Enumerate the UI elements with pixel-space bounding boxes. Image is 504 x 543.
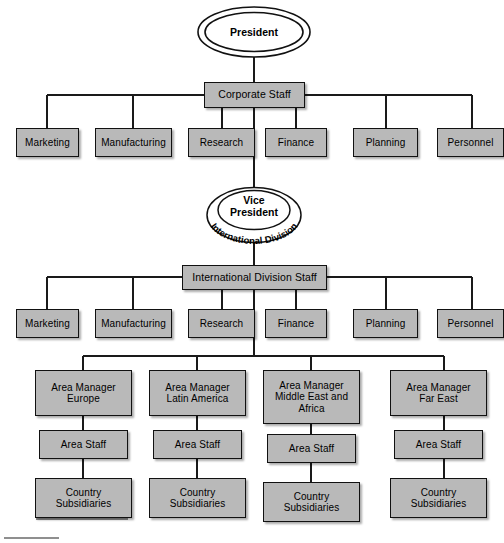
footer-rule-lower	[4, 537, 59, 539]
president-label: President	[230, 26, 278, 38]
corporate-dept-label: Manufacturing	[101, 137, 166, 149]
international-division-staff-box[interactable]: International Division Staff	[182, 265, 327, 290]
corporate-dept-label: Finance	[278, 137, 314, 149]
corporate-dept-finance[interactable]: Finance	[265, 128, 327, 157]
area-staff-label: Area Staff	[175, 439, 220, 451]
international-dept-label: Finance	[278, 318, 314, 330]
area-manager-label-line3: Africa	[275, 403, 348, 415]
international-dept-label: Manufacturing	[101, 318, 166, 330]
corporate-dept-label: Research	[200, 137, 244, 149]
corporate-dept-planning[interactable]: Planning	[353, 128, 418, 157]
corporate-dept-label: Planning	[366, 137, 406, 149]
corporate-dept-research[interactable]: Research	[188, 128, 255, 157]
area-staff-box-europe[interactable]: Area Staff	[39, 430, 128, 459]
international-dept-planning[interactable]: Planning	[353, 309, 418, 338]
area-manager-label-line1: Area Manager	[51, 382, 116, 394]
international-dept-label: Planning	[366, 318, 406, 330]
international-dept-manufacturing[interactable]: Manufacturing	[95, 309, 172, 338]
country-subsidiaries-label-line2: Subsidiaries	[284, 502, 340, 514]
international-dept-research[interactable]: Research	[188, 309, 255, 338]
country-subsidiaries-label-line2: Subsidiaries	[56, 498, 112, 510]
area-staff-box-middle-east-africa[interactable]: Area Staff	[267, 434, 356, 463]
area-manager-label-line1: Area Manager	[406, 382, 471, 394]
vice-president-label-line1: Vice	[243, 194, 265, 206]
area-manager-label-line2: Europe	[51, 393, 116, 405]
international-dept-label: Marketing	[25, 318, 70, 330]
corporate-staff-box[interactable]: Corporate Staff	[204, 82, 305, 108]
corporate-dept-label: Personnel	[448, 137, 494, 149]
area-manager-label-line1: Area Manager	[275, 380, 348, 392]
international-division-staff-label: International Division Staff	[192, 272, 317, 284]
international-dept-label: Personnel	[448, 318, 494, 330]
area-manager-label-line2: Latin America	[165, 393, 230, 405]
footer-rule-upper	[36, 518, 128, 520]
area-staff-label: Area Staff	[289, 443, 334, 455]
corporate-dept-marketing[interactable]: Marketing	[16, 128, 79, 157]
country-subsidiaries-box-latin-america[interactable]: Country Subsidiaries	[149, 478, 246, 518]
area-manager-label-line2: Far East	[406, 393, 471, 405]
country-subsidiaries-label-line1: Country	[170, 487, 226, 499]
corporate-dept-manufacturing[interactable]: Manufacturing	[95, 128, 172, 157]
country-subsidiaries-box-middle-east-africa[interactable]: Country Subsidiaries	[263, 482, 360, 522]
vice-president-label-line2: President	[230, 206, 278, 218]
area-manager-label-line1: Area Manager	[165, 382, 230, 394]
area-manager-box-europe[interactable]: Area Manager Europe	[35, 370, 132, 416]
country-subsidiaries-box-far-east[interactable]: Country Subsidiaries	[390, 478, 487, 518]
area-staff-box-far-east[interactable]: Area Staff	[394, 430, 483, 459]
international-dept-marketing[interactable]: Marketing	[16, 309, 79, 338]
area-manager-box-latin-america[interactable]: Area Manager Latin America	[149, 370, 246, 416]
president-node[interactable]: President	[196, 5, 312, 59]
country-subsidiaries-label-line1: Country	[411, 487, 467, 499]
corporate-dept-label: Marketing	[25, 137, 70, 149]
area-manager-box-far-east[interactable]: Area Manager Far East	[390, 370, 487, 416]
country-subsidiaries-label-line2: Subsidiaries	[411, 498, 467, 510]
international-dept-label: Research	[200, 318, 244, 330]
corporate-dept-personnel[interactable]: Personnel	[437, 128, 504, 157]
area-manager-label-line2: Middle East and	[275, 391, 348, 403]
area-staff-box-latin-america[interactable]: Area Staff	[153, 430, 242, 459]
international-dept-finance[interactable]: Finance	[265, 309, 327, 338]
country-subsidiaries-label-line1: Country	[56, 487, 112, 499]
area-staff-label: Area Staff	[61, 439, 106, 451]
country-subsidiaries-box-europe[interactable]: Country Subsidiaries	[35, 478, 132, 518]
corporate-staff-label: Corporate Staff	[218, 89, 291, 101]
area-manager-box-middle-east-africa[interactable]: Area Manager Middle East and Africa	[263, 370, 360, 424]
international-dept-personnel[interactable]: Personnel	[437, 309, 504, 338]
vice-president-node[interactable]: Vice President International Division	[199, 185, 309, 245]
country-subsidiaries-label-line1: Country	[284, 491, 340, 503]
area-staff-label: Area Staff	[416, 439, 461, 451]
country-subsidiaries-label-line2: Subsidiaries	[170, 498, 226, 510]
